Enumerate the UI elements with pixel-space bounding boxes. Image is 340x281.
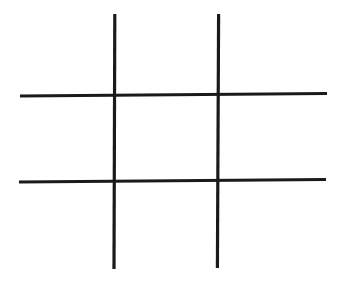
cell-top-left[interactable] [0, 0, 114, 94]
cell-middle-left[interactable] [0, 98, 114, 180]
cell-middle-center[interactable] [118, 98, 218, 180]
cell-top-right[interactable] [222, 0, 340, 94]
tic-tac-toe-board [0, 0, 340, 281]
vertical-line-left [114, 14, 115, 269]
cell-top-center[interactable] [118, 0, 218, 94]
cell-bottom-right[interactable] [222, 184, 340, 281]
cell-bottom-left[interactable] [0, 184, 114, 281]
cell-middle-right[interactable] [222, 98, 340, 180]
cell-bottom-center[interactable] [118, 184, 218, 281]
